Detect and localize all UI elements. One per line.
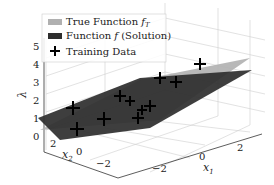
- legend-swatch-solution: [48, 33, 62, 39]
- svg-text:2: 2: [237, 142, 243, 153]
- svg-text:4: 4: [33, 59, 39, 70]
- x-axis-line: [118, 134, 262, 178]
- y-axis-label: x2: [62, 148, 73, 163]
- z-tick-labels: 0 1 2 3 4 5: [33, 41, 39, 142]
- x-axis-label: x1: [203, 161, 214, 176]
- svg-text:−2: −2: [152, 163, 167, 174]
- legend-swatch-true: [48, 19, 62, 25]
- svg-text:0: 0: [76, 146, 82, 157]
- svg-text:5: 5: [33, 41, 39, 52]
- svg-text:2: 2: [50, 138, 56, 149]
- svg-text:1: 1: [33, 113, 39, 124]
- x-tick-labels: −2 0 2: [152, 142, 243, 174]
- plot-canvas: 0 1 2 3 4 5 2 0 −2 −2 0 2 λ x2 x1 True F…: [0, 0, 274, 185]
- svg-text:3: 3: [33, 77, 39, 88]
- svg-text:−2: −2: [96, 158, 111, 169]
- y-tick-labels: 2 0 −2: [50, 138, 111, 169]
- chart-3d: 0 1 2 3 4 5 2 0 −2 −2 0 2 λ x2 x1 True F…: [0, 0, 274, 185]
- legend: True Function fT Function f (Solution) T…: [42, 14, 171, 62]
- z-axis-label: λ: [16, 91, 29, 99]
- svg-text:0: 0: [33, 131, 39, 142]
- legend-label-training: Training Data: [66, 46, 136, 57]
- legend-label-solution: Function f (Solution): [66, 30, 171, 41]
- svg-text:2: 2: [33, 95, 39, 106]
